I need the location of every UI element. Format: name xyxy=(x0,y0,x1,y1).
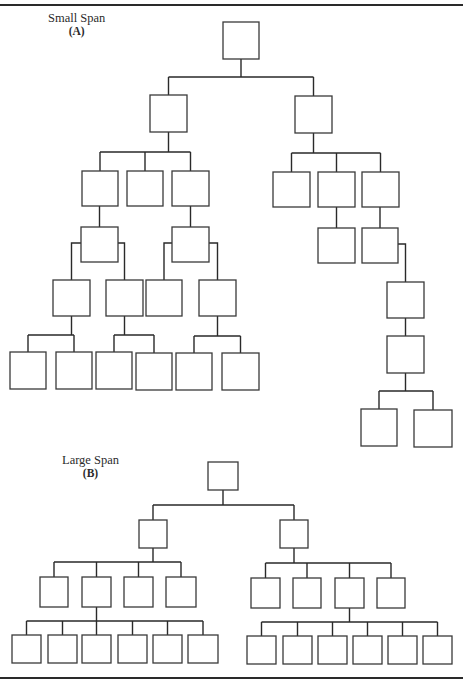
org-box xyxy=(82,635,111,663)
connector-line xyxy=(292,133,381,172)
org-box xyxy=(139,520,167,548)
org-box xyxy=(106,280,143,316)
org-box xyxy=(293,578,321,608)
org-box xyxy=(362,172,399,207)
org-box xyxy=(10,352,46,389)
org-box xyxy=(362,228,398,263)
org-box xyxy=(150,95,187,132)
org-box xyxy=(335,578,364,608)
connector-line xyxy=(114,316,154,353)
bottom-rule xyxy=(0,677,463,679)
org-box xyxy=(81,227,118,262)
org-box xyxy=(124,577,153,607)
connector-line xyxy=(262,608,438,636)
connector-line xyxy=(153,490,294,520)
connector-line xyxy=(100,132,191,171)
org-box xyxy=(387,336,424,373)
org-box xyxy=(318,172,355,207)
connector-line xyxy=(28,316,74,352)
org-box xyxy=(96,352,132,389)
connector-line xyxy=(194,316,241,353)
org-box xyxy=(199,280,236,316)
org-box xyxy=(53,280,90,316)
org-box xyxy=(208,462,238,490)
org-box xyxy=(172,227,209,262)
connector-line xyxy=(379,373,433,410)
org-box xyxy=(12,635,41,663)
org-box xyxy=(172,171,209,206)
org-box xyxy=(414,410,452,447)
org-box xyxy=(127,171,163,206)
connector-line xyxy=(266,548,392,578)
org-box xyxy=(273,172,310,207)
org-box xyxy=(318,228,355,263)
org-box xyxy=(40,577,68,607)
org-box xyxy=(318,636,347,664)
org-boxes xyxy=(10,22,452,664)
org-box xyxy=(353,636,382,664)
connector-line xyxy=(54,548,181,577)
org-box xyxy=(251,578,280,608)
org-box xyxy=(377,578,405,608)
org-box xyxy=(48,635,77,663)
org-box xyxy=(136,353,172,390)
org-chart-canvas xyxy=(0,0,463,681)
org-box xyxy=(387,282,424,318)
org-box xyxy=(423,636,452,664)
connector-line xyxy=(27,607,204,635)
connector-line xyxy=(169,59,314,96)
org-box xyxy=(166,577,196,607)
org-box xyxy=(388,636,417,664)
connector-line xyxy=(398,244,406,282)
org-box xyxy=(153,635,182,663)
org-box xyxy=(188,635,218,663)
org-box xyxy=(82,171,118,206)
org-box xyxy=(361,409,397,446)
org-box xyxy=(280,520,308,548)
org-box xyxy=(118,635,147,663)
org-box xyxy=(146,280,182,316)
org-box xyxy=(223,22,259,59)
connector-lines xyxy=(27,59,438,636)
org-box xyxy=(295,96,332,133)
org-box xyxy=(82,577,111,607)
org-box xyxy=(56,352,92,389)
org-box xyxy=(222,353,259,390)
org-box xyxy=(283,636,312,664)
org-box xyxy=(176,353,212,390)
org-box xyxy=(247,636,276,664)
